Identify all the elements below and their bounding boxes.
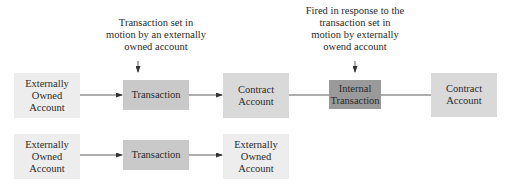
node-transaction: Transaction <box>123 80 189 110</box>
node-internal-transaction: Internal Transaction <box>329 80 381 109</box>
annotation-internal-transaction: Fired in response to the transaction set… <box>290 5 420 53</box>
node-transaction-eoa: Transaction <box>123 140 189 170</box>
node-externally-owned-account-sender: Externally Owned Account <box>14 134 80 179</box>
node-externally-owned-account-receiver: Externally Owned Account <box>223 134 289 179</box>
node-contract-account: Contract Account <box>223 73 289 118</box>
annotation-transaction: Transaction set in motion by an external… <box>96 17 216 53</box>
node-externally-owned-account: Externally Owned Account <box>14 73 80 118</box>
node-contract-account-target: Contract Account <box>431 73 497 117</box>
